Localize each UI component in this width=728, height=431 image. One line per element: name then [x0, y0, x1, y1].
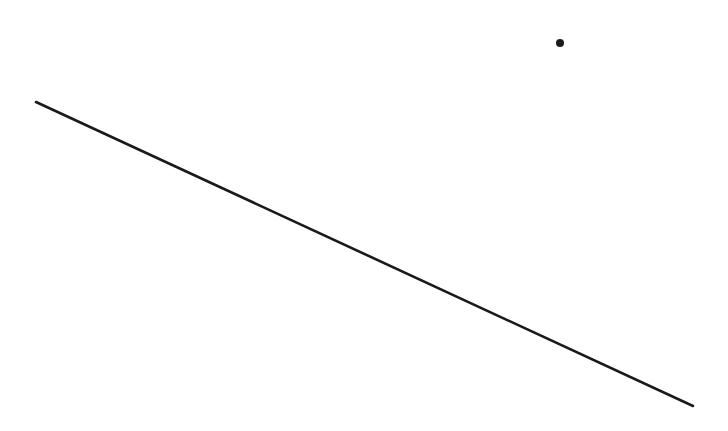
point-above-line	[556, 39, 564, 47]
straight-line	[36, 102, 693, 406]
geometry-figure	[0, 0, 728, 431]
diagram-canvas	[0, 0, 728, 431]
